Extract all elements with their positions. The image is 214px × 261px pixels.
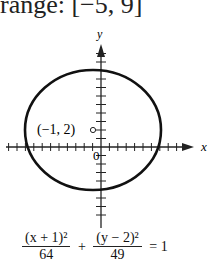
x-axis-arrow-icon: [182, 143, 194, 151]
center-point: [90, 127, 95, 132]
fraction-x: (x + 1)² 64: [22, 230, 70, 261]
numerator-y: (y − 2)²: [93, 230, 141, 247]
fraction-y: (y − 2)² 49: [93, 230, 141, 261]
y-axis-arrow-icon: [97, 44, 105, 57]
equals-one: = 1: [149, 239, 167, 255]
x-axis: [6, 143, 194, 151]
y-axis-label: y: [96, 27, 103, 41]
origin-label: 0: [93, 148, 100, 163]
ellipse-graph: (−1, 2) 0 x y: [0, 0, 214, 261]
denominator-y: 49: [93, 247, 141, 261]
denominator-x: 64: [22, 247, 70, 261]
center-label: (−1, 2): [37, 122, 76, 138]
numerator-x: (x + 1)²: [22, 230, 70, 247]
ellipse-equation: (x + 1)² 64 + (y − 2)² 49 = 1: [22, 230, 172, 261]
plus-sign: +: [78, 239, 86, 255]
x-axis-label: x: [200, 139, 207, 154]
